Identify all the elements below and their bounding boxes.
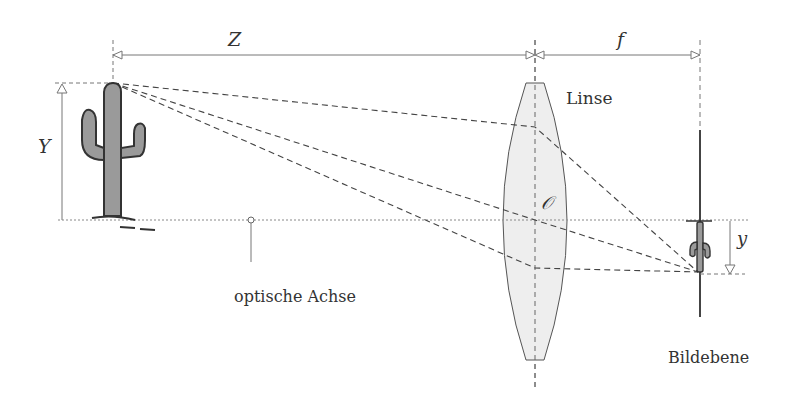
y-arrow-up-icon [57,84,67,93]
z-label: Z [228,28,241,50]
optical-center-label: 𝒪 [541,192,552,214]
cactus-image-icon [690,222,710,272]
optical-axis-label: optische Achse [234,287,356,306]
light-rays [113,83,698,272]
lens-diagram [0,0,800,405]
lens-label: Linse [566,88,612,108]
image-plane-label: Bildebene [668,348,749,367]
f-arrow-left-icon [535,51,544,59]
image-height-arrow-icon [725,265,735,274]
f-arrow-right-icon [691,51,700,59]
optical-axis-marker [248,217,254,223]
y-image-label: y [737,228,747,249]
f-label: f [617,28,624,50]
y-object-label: Y [38,135,51,157]
z-arrow-right-icon [526,51,535,59]
z-arrow-left-icon [113,51,122,59]
cactus-object-icon [82,83,145,216]
